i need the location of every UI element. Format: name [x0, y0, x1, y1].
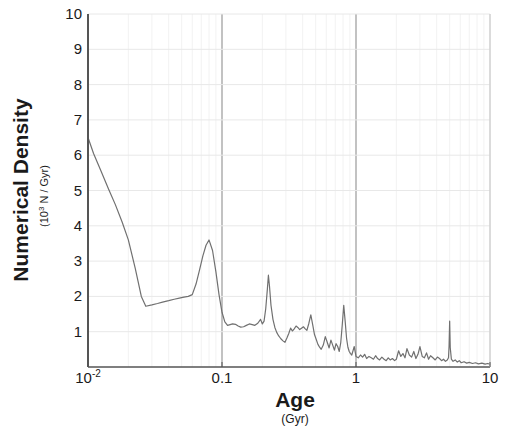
x-tick-label: 0.1 [212, 369, 233, 386]
x-axis-title: Age [275, 388, 315, 411]
y-axis-units: (103 N / Gyr) [37, 165, 50, 227]
numerical-density-vs-age-chart: 12345678910 10-20.1110 Numerical Density… [0, 0, 510, 437]
y-tick-label: 10 [65, 5, 82, 22]
y-tick-label: 7 [74, 111, 82, 128]
x-tick-label: 10 [482, 369, 499, 386]
y-tick-label: 6 [74, 146, 82, 163]
y-axis-title: Numerical Density [9, 98, 32, 282]
y-tick-label: 1 [74, 323, 82, 340]
y-tick-label: 4 [74, 217, 82, 234]
y-tick-label: 9 [74, 40, 82, 57]
x-tick-label: 1 [352, 369, 360, 386]
y-tick-label: 2 [74, 287, 82, 304]
y-tick-label: 3 [74, 252, 82, 269]
y-tick-label: 8 [74, 76, 82, 93]
y-tick-label: 5 [74, 182, 82, 199]
x-axis-units: (Gyr) [281, 412, 308, 426]
